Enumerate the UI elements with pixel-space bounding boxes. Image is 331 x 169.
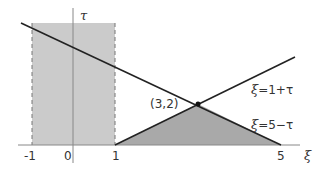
tau-axis-label: τ	[80, 8, 88, 23]
tick-label-neg1: -1	[24, 149, 36, 163]
intersection-label: (3,2)	[150, 97, 178, 111]
xi-axis-label: ξ	[304, 148, 312, 163]
tick-label-5: 5	[277, 149, 285, 163]
tick-label-0: 0	[64, 149, 72, 163]
line1-label: ξ=1+τ	[251, 82, 293, 97]
line2-label: ξ=5−τ	[251, 117, 293, 132]
intersection-point	[196, 102, 201, 107]
diagram-canvas: (3,2) ξ=1+τ ξ=5−τ τ ξ -1 0 1 5	[0, 0, 331, 169]
tick-label-1: 1	[112, 149, 120, 163]
